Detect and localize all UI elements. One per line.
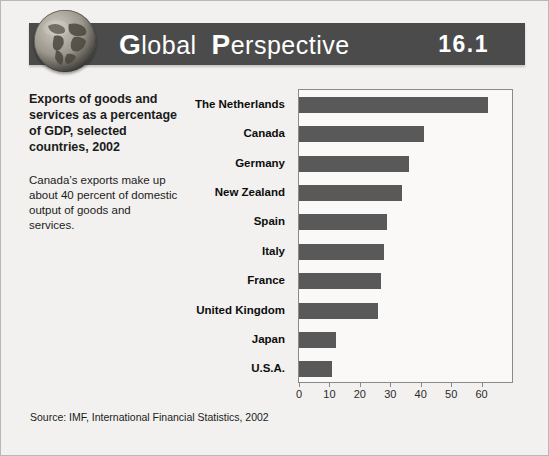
global-perspective-figure: Global Perspective 16.1 — [0, 0, 549, 456]
title-word-global-rest: lobal — [141, 31, 196, 59]
bar — [299, 273, 381, 289]
axis-tick-label: 50 — [445, 388, 457, 400]
axis-tick-label: 0 — [296, 388, 302, 400]
caption-note-text: Canada’s exports make up about 40 percen… — [29, 173, 179, 233]
value-axis: 0102030405060 — [298, 383, 513, 409]
header-banner: Global Perspective 16.1 — [29, 23, 525, 65]
axis-tick-label: 10 — [323, 388, 335, 400]
caption-block: Exports of goods and services as a perce… — [29, 91, 179, 233]
bar-chart: The NetherlandsCanadaGermanyNew ZealandS… — [179, 87, 519, 407]
category-label: Spain — [254, 215, 285, 227]
bar — [299, 361, 332, 377]
category-label: Canada — [243, 127, 285, 139]
page-title: Global Perspective — [119, 29, 350, 61]
axis-tick-label: 60 — [475, 388, 487, 400]
axis-tick — [299, 383, 300, 387]
globe-icon — [34, 10, 96, 72]
caption-main-text: Exports of goods and services as a perce… — [29, 91, 179, 155]
figure-number: 16.1 — [438, 31, 489, 58]
bar — [299, 185, 402, 201]
axis-tick — [482, 383, 483, 387]
bar — [299, 214, 387, 230]
axis-tick — [390, 383, 391, 387]
title-word-perspective-initial: P — [212, 29, 231, 60]
title-word-perspective-rest: erspective — [231, 31, 350, 59]
axis-tick — [329, 383, 330, 387]
category-label: Italy — [262, 245, 285, 257]
category-axis-labels: The NetherlandsCanadaGermanyNew ZealandS… — [179, 87, 291, 383]
category-label: Germany — [235, 157, 285, 169]
bar — [299, 332, 336, 348]
category-label: The Netherlands — [195, 98, 285, 110]
bar — [299, 126, 424, 142]
title-word-global-initial: G — [119, 29, 141, 60]
category-label: New Zealand — [215, 186, 285, 198]
bar — [299, 97, 488, 113]
plot-area — [298, 89, 513, 383]
category-label: France — [247, 274, 285, 286]
category-label: United Kingdom — [196, 304, 285, 316]
category-label: Japan — [252, 333, 285, 345]
axis-tick-label: 40 — [415, 388, 427, 400]
source-note: Source: IMF, International Financial Sta… — [30, 411, 269, 423]
bar — [299, 244, 384, 260]
axis-tick — [451, 383, 452, 387]
axis-tick — [421, 383, 422, 387]
bar — [299, 156, 409, 172]
axis-tick-label: 20 — [354, 388, 366, 400]
axis-tick-label: 30 — [384, 388, 396, 400]
axis-tick — [360, 383, 361, 387]
bar — [299, 303, 378, 319]
category-label: U.S.A. — [251, 362, 285, 374]
